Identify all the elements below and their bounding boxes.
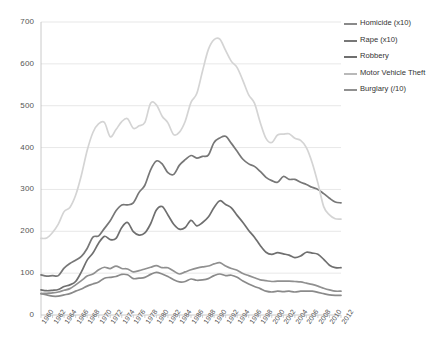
series-line-motor-vehicle-theft — [41, 38, 341, 239]
legend-item[interactable]: Burglary (/10) — [344, 84, 432, 94]
legend-swatch-icon — [344, 56, 357, 58]
legend-label: Burglary (/10) — [360, 84, 406, 94]
legend-item[interactable]: Rape (x10) — [344, 35, 432, 45]
legend-label: Rape (x10) — [360, 35, 398, 45]
legend-swatch-icon — [344, 73, 357, 75]
legend-item[interactable]: Motor Vehicle Theft — [344, 68, 432, 78]
legend-swatch-icon — [344, 23, 357, 25]
legend-swatch-icon — [344, 89, 357, 91]
crime-rate-line-chart: 0100200300400500600700 19601962196419661… — [0, 0, 433, 356]
legend-label: Robbery — [360, 51, 389, 61]
chart-legend: Homicide (x10)Rape (x10)RobberyMotor Veh… — [344, 18, 432, 101]
legend-item[interactable]: Homicide (x10) — [344, 18, 432, 28]
legend-swatch-icon — [344, 40, 357, 42]
legend-item[interactable]: Robbery — [344, 51, 432, 61]
legend-label: Motor Vehicle Theft — [360, 68, 425, 78]
series-line-burglary-10 — [41, 263, 341, 294]
legend-label: Homicide (x10) — [360, 18, 411, 28]
